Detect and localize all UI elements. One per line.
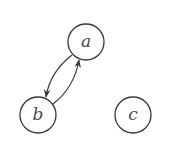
node-b: b <box>20 97 56 133</box>
node-a: a <box>68 24 104 60</box>
node-b-label: b <box>33 104 44 124</box>
graph-diagram: a b c <box>0 0 169 150</box>
edge-b-to-a <box>53 60 79 104</box>
edge-a-to-b <box>46 55 72 97</box>
node-c: c <box>115 97 151 133</box>
node-c-label: c <box>128 104 138 124</box>
node-a-label: a <box>81 31 91 51</box>
